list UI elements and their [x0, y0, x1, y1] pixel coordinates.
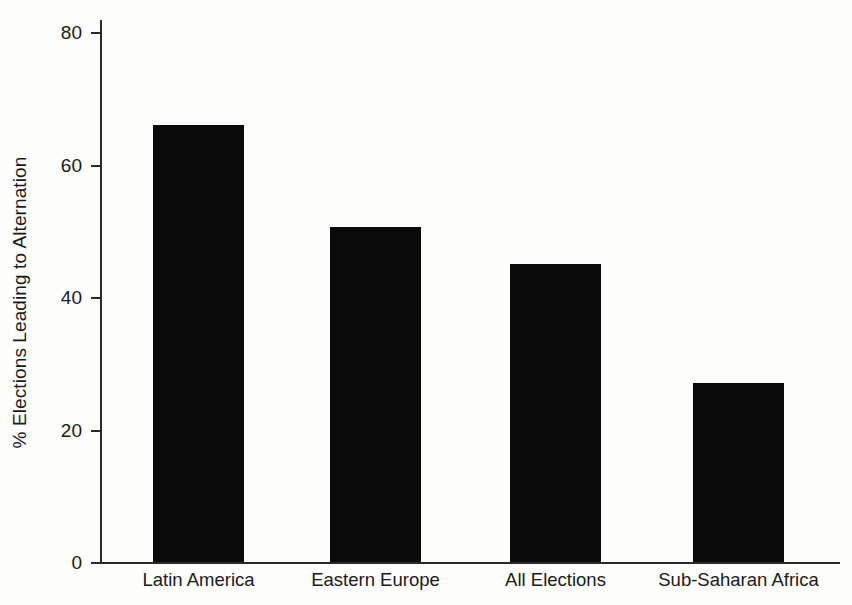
bar [510, 264, 601, 562]
bar-chart-figure: % Elections Leading to Alternation 80 60… [0, 0, 852, 605]
x-axis-category-label: Sub-Saharan Africa [658, 569, 818, 591]
x-axis-category-label: All Elections [505, 569, 606, 591]
bar [693, 383, 784, 562]
x-axis-category-label: Latin America [142, 569, 254, 591]
bar [153, 125, 244, 562]
x-axis-category-label: Eastern Europe [311, 569, 440, 591]
bar [330, 227, 421, 562]
plot-area: Latin AmericaEastern EuropeAll Elections… [0, 0, 852, 605]
